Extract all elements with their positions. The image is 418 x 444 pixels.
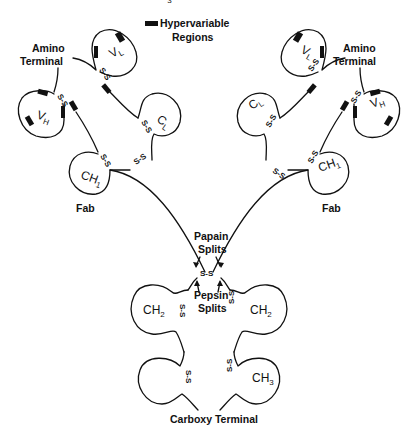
disulfide-bond: S-S [132, 151, 149, 166]
disulfide-bond: S-S [225, 358, 234, 372]
amino-leader-left [54, 68, 58, 92]
disulfide-bond: S-S [139, 119, 154, 136]
ch1-right-label: CH1 [316, 154, 342, 177]
disulfide-bond: S-S [349, 88, 364, 105]
heavy-chain-left [110, 170, 205, 272]
disulfide-bond: S-S [271, 166, 288, 181]
chain-link [320, 112, 342, 152]
pepsin-label-2: Splits [198, 302, 227, 314]
ch2-right-label: CH2 [250, 303, 272, 319]
papain-label-1: Papain [194, 230, 228, 242]
heavy-chain-right [213, 170, 308, 272]
ch2-right-domain [230, 285, 287, 352]
hv-region [340, 100, 349, 111]
fc-right: CH2 S-S CH3 S-S [220, 278, 287, 410]
cl-left-label: CL [153, 112, 173, 133]
amino-terminal-left-line1: Amino [32, 42, 65, 54]
hv-region [353, 106, 357, 118]
ch3-left-label: CH3 [150, 0, 172, 5]
chain-link [108, 90, 138, 118]
papain-label-2: Splits [198, 243, 227, 255]
arrowhead-icon [193, 262, 199, 268]
disulfide-bond: S-S [227, 290, 236, 304]
vh-left-label: VH [34, 108, 53, 128]
disulfide-bond: S-S [264, 112, 279, 129]
ch1-left-label: CH1 [78, 168, 104, 191]
chain-link [280, 90, 310, 118]
disulfide-bond: S-S [184, 370, 193, 384]
fab-left: Amino Terminal VL S-S CL S-S VH S-S CH1 … [18, 30, 205, 272]
fab-right-label: Fab [322, 202, 341, 214]
disulfide-bond: S-S [178, 304, 187, 318]
disulfide-bond: S-S [98, 153, 113, 170]
fab-right-labels: Amino Terminal VL CL VH CH1 S-S S-S S-S … [246, 42, 387, 214]
legend-line-2: Regions [172, 31, 214, 43]
hypervariable-swatch [145, 21, 158, 26]
disulfide-bond: S-S [55, 93, 70, 110]
disulfide-bond: S-S [97, 66, 112, 83]
ch3-right-label: CH3 [252, 371, 274, 387]
arrowhead-icon [217, 280, 223, 286]
amino-terminal-left-line2: Terminal [20, 55, 63, 67]
hv-region [320, 46, 324, 58]
hv-region [94, 46, 98, 58]
hv-region [37, 89, 48, 96]
hv-region [384, 115, 393, 126]
legend: Hypervariable Regions [145, 17, 230, 43]
hv-region [69, 100, 78, 111]
amino-terminal-right-line2: Terminal [333, 55, 376, 67]
vl-left-label: VL [107, 42, 126, 62]
pepsin-label-1: Pepsin [194, 289, 228, 301]
amino-terminal-right-line1: Amino [343, 42, 376, 54]
vh-right-label: VH [368, 93, 387, 113]
hv-region [293, 31, 303, 43]
antibody-diagram: Hypervariable Regions Amino Terminal VL … [0, 0, 418, 444]
hinge-disulfide: S-S [200, 269, 214, 278]
legend-line-1: Hypervariable [160, 17, 230, 29]
carboxy-terminal-label: Carboxy Terminal [170, 413, 258, 425]
hv-region [25, 115, 34, 126]
fab-left-label: Fab [76, 202, 95, 214]
amino-leader-right [360, 68, 364, 92]
hv-region [115, 31, 125, 43]
ch2-left-label: CH2 [143, 303, 165, 319]
chain-link [76, 112, 98, 152]
hinge-region: Papain Splits S-S Pepsin Splits [193, 230, 228, 314]
